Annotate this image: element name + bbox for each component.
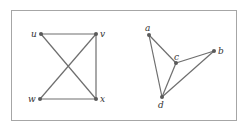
graph-diagram: uvwxabcd bbox=[0, 0, 243, 128]
node-x bbox=[94, 97, 98, 101]
labels-layer: uvwxabcd bbox=[28, 23, 224, 110]
node-label-a: a bbox=[145, 23, 150, 33]
node-v bbox=[94, 32, 98, 36]
edge-c-d bbox=[162, 63, 176, 97]
node-label-v: v bbox=[100, 29, 105, 39]
node-label-u: u bbox=[31, 29, 37, 39]
edge-b-d bbox=[162, 51, 214, 97]
node-b bbox=[212, 49, 216, 53]
node-d bbox=[160, 95, 164, 99]
node-label-b: b bbox=[218, 46, 224, 56]
edge-a-c bbox=[149, 35, 176, 63]
edges-layer bbox=[40, 34, 214, 99]
node-label-c: c bbox=[174, 52, 179, 62]
node-u bbox=[39, 32, 43, 36]
node-label-x: x bbox=[100, 94, 105, 104]
node-w bbox=[38, 97, 42, 101]
nodes-layer bbox=[38, 32, 216, 101]
edge-a-d bbox=[149, 35, 162, 97]
node-label-d: d bbox=[158, 100, 164, 110]
node-label-w: w bbox=[28, 94, 36, 104]
edge-c-b bbox=[176, 51, 214, 63]
node-a bbox=[147, 33, 151, 37]
